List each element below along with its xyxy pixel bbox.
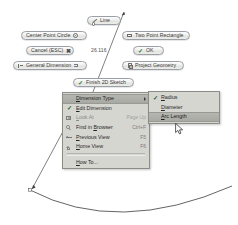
menu-item-label: Find in Browser [76, 125, 128, 130]
menu-item-find-in-browser[interactable]: Find in Browser Ctrl+F [63, 123, 149, 133]
two-point-rectangle-label: Two Point Rectangle [135, 33, 184, 38]
mouse-cursor [175, 123, 184, 135]
center-point-circle-label: Center Point Circle [26, 33, 70, 38]
submenu-item-label: Diameter [161, 105, 216, 110]
lookat-icon [66, 115, 72, 121]
project-geometry-button[interactable]: Project Geometry [122, 61, 184, 70]
dimension-icon [18, 63, 24, 69]
menu-item-label: Look At [76, 115, 123, 120]
menu-item-dimension-type[interactable]: Dimension Type [63, 94, 149, 104]
menu-item-look-at[interactable]: Look At Page Up [63, 113, 149, 123]
previous-view-icon [66, 134, 72, 140]
rectangle-icon [127, 33, 133, 39]
find-icon [66, 125, 72, 131]
menu-item-label: Dimension Type [76, 96, 141, 101]
line-button-label: Line [100, 18, 110, 23]
menu-item-label: Home View [76, 144, 136, 149]
center-point-circle-button[interactable]: Center Point Circle [21, 31, 87, 40]
two-point-rectangle-button[interactable]: Two Point Rectangle [122, 31, 190, 40]
menu-item-shortcut: F6 [136, 144, 146, 149]
menu-item-how-to[interactable]: How To... [63, 158, 149, 168]
home-icon [66, 144, 72, 150]
dimension-value-text: 26.116 [91, 47, 107, 53]
menu-item-edit-dimension[interactable]: ✓ Edit Dimension [63, 104, 149, 114]
ok-button[interactable]: ✓ OK [133, 46, 164, 55]
menu-item-shortcut: Ctrl+F [128, 125, 146, 130]
checkmark-icon: ✓ [78, 80, 84, 86]
checkmark-icon: ✓ [138, 48, 144, 54]
close-icon: ✖ [65, 48, 71, 54]
project-icon [127, 63, 133, 69]
context-menu[interactable]: Dimension Type ✓ Edit Dimension Look At … [62, 92, 150, 169]
sketch-canvas: 26.116 Line Center Point Circle Two Poin… [0, 0, 238, 225]
project-geometry-label: Project Geometry [135, 63, 176, 68]
submenu-item-radius[interactable]: ✓ Radius [149, 93, 219, 103]
cancel-button-label: Cancel (ESC) [31, 48, 63, 53]
menu-item-previous-view[interactable]: Previous View F5 [63, 132, 149, 142]
menu-item-shortcut: F5 [136, 135, 146, 140]
menu-item-shortcut: Page Up [123, 115, 146, 120]
cursor-arrow-icon [176, 123, 183, 133]
general-dimension-button[interactable]: General Dimension [13, 61, 87, 70]
menu-separator [67, 153, 145, 156]
dimension-type-submenu[interactable]: ✓ Radius Diameter Arc Length [148, 91, 220, 124]
leader-arrowhead [122, 12, 126, 16]
circle-icon [72, 33, 78, 39]
finish-2d-sketch-button[interactable]: ✓ Finish 2D Sketch [73, 78, 134, 87]
ok-button-label: OK [146, 48, 154, 53]
chevron-right-icon [144, 97, 146, 101]
menu-item-home-view[interactable]: Home View F6 [63, 142, 149, 152]
check-icon: ✓ [153, 95, 158, 101]
general-dimension-label: General Dimension [26, 63, 71, 68]
submenu-item-label: Radius [161, 95, 216, 100]
submenu-item-label: Arc Length [161, 114, 216, 119]
submenu-item-diameter[interactable]: Diameter [149, 103, 219, 113]
sketch-arc [30, 186, 232, 212]
finish-2d-sketch-label: Finish 2D Sketch [86, 80, 126, 85]
cancel-button[interactable]: Cancel (ESC) ✖ [26, 46, 74, 55]
menu-item-label: Previous View [76, 135, 136, 140]
check-icon: ✓ [67, 105, 72, 111]
menu-item-label: How To... [76, 160, 146, 165]
dimension-box-icon [73, 63, 79, 69]
arc-endpoint-node[interactable] [29, 189, 32, 192]
submenu-item-arc-length[interactable]: Arc Length [149, 112, 219, 122]
line-icon [92, 18, 98, 24]
line-button[interactable]: Line [87, 16, 121, 25]
menu-item-label: Edit Dimension [76, 106, 146, 111]
